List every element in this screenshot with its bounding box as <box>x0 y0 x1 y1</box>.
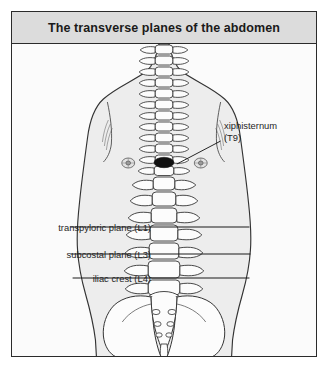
label-xiphisternum: xiphisternum (T9) <box>224 120 277 143</box>
pelvis <box>103 292 225 358</box>
illustration-area: transpyloric plane (L1) subcostal plane … <box>12 44 316 357</box>
left-nipple-marker <box>122 158 135 168</box>
label-xiphisternum-level: (T9) <box>224 132 277 144</box>
abdomen-transverse-planes-diagram <box>12 44 316 357</box>
figure-frame: The transverse planes of the abdomen <box>11 11 317 357</box>
label-xiphisternum-name: xiphisternum <box>224 120 277 132</box>
label-subcostal-plane: subcostal plane (L3) <box>67 249 151 260</box>
label-iliac-crest: iliac crest (L4) <box>93 273 151 284</box>
page-title: The transverse planes of the abdomen <box>48 21 280 35</box>
label-transpyloric-plane: transpyloric plane (L1) <box>58 222 151 233</box>
xiphisternum-marker <box>154 157 174 167</box>
figure-title-banner: The transverse planes of the abdomen <box>12 12 316 44</box>
right-nipple-marker <box>194 158 207 168</box>
